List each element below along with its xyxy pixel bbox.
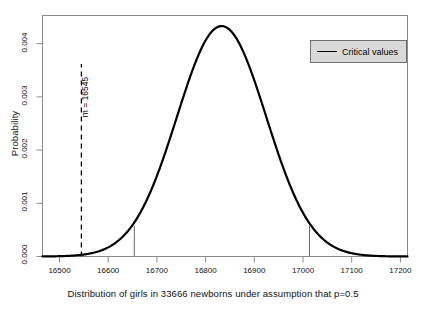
x-tick-label-3: 16800 <box>186 266 226 275</box>
legend-line-swatch <box>317 51 337 52</box>
x-tick-label-5: 17000 <box>283 266 323 275</box>
x-tick-label-0: 16500 <box>40 266 80 275</box>
y-tick-label-1: 0.001 <box>20 185 29 219</box>
legend[interactable]: Critical values <box>310 40 407 63</box>
x-tick-label-2: 16700 <box>137 266 177 275</box>
chart-figure: 0.000 0.001 0.002 0.003 0.004 16500 1660… <box>0 0 426 310</box>
x-axis-ticks <box>60 257 401 263</box>
critical-value-lines <box>134 226 309 257</box>
x-tick-label-4: 16900 <box>234 266 274 275</box>
y-tick-label-4: 0.004 <box>20 26 29 60</box>
x-tick-label-1: 16600 <box>88 266 128 275</box>
y-tick-label-3: 0.003 <box>20 79 29 113</box>
x-axis-title: Distribution of girls in 33666 newborns … <box>0 288 426 299</box>
y-tick-label-0: 0.000 <box>20 238 29 272</box>
legend-label-critical-values: Critical values <box>342 47 398 57</box>
y-axis-ticks <box>37 44 43 257</box>
x-tick-label-7: 17200 <box>380 266 420 275</box>
observed-value-label: m = 16545 <box>80 67 90 127</box>
y-axis-title: Probability <box>9 94 20 174</box>
y-tick-label-2: 0.002 <box>20 132 29 166</box>
x-tick-label-6: 17100 <box>332 266 372 275</box>
